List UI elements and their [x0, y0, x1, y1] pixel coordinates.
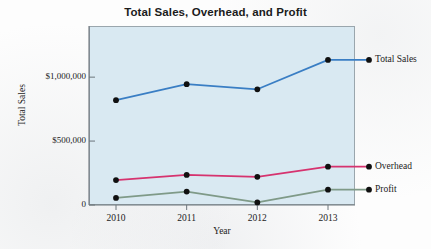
data-point-marker: [325, 164, 331, 170]
x-axis-title: Year: [89, 226, 355, 236]
series-line-overhead: [116, 167, 328, 180]
y-axis-title: Total Sales: [17, 65, 27, 145]
x-axis-tick-label: 2013: [306, 213, 350, 223]
data-point-marker: [184, 189, 190, 195]
data-point-marker: [184, 81, 190, 87]
x-axis-tick-label: 2010: [94, 213, 138, 223]
x-axis-tick-label: 2012: [235, 213, 279, 223]
legend-label-profit: Profit: [375, 184, 397, 194]
y-axis-tick-label: 0: [82, 199, 87, 209]
data-point-marker: [184, 172, 190, 178]
y-axis-tick-labels: 0$500,000$1,000,000: [0, 0, 86, 249]
data-point-marker: [113, 177, 119, 183]
x-axis-tick-label: 2011: [165, 213, 209, 223]
y-axis-tick-label: $1,000,000: [46, 71, 87, 81]
legend-label-overhead: Overhead: [375, 161, 412, 171]
chart-figure: Total Sales, Overhead, and Profit 0$500,…: [0, 0, 431, 249]
series-line-total-sales: [116, 60, 328, 100]
legend-marker: [366, 187, 372, 193]
legend-marker: [366, 57, 372, 63]
data-point-marker: [254, 200, 260, 206]
data-point-marker: [113, 195, 119, 201]
plot-canvas: [89, 26, 355, 205]
data-point-marker: [254, 86, 260, 92]
y-axis-tick-label: $500,000: [52, 135, 86, 145]
data-point-marker: [254, 174, 260, 180]
series-line-profit: [116, 190, 328, 203]
legend-marker: [366, 164, 372, 170]
data-point-marker: [325, 187, 331, 193]
data-point-marker: [113, 97, 119, 103]
legend-label-total-sales: Total Sales: [375, 54, 417, 64]
data-point-marker: [325, 57, 331, 63]
